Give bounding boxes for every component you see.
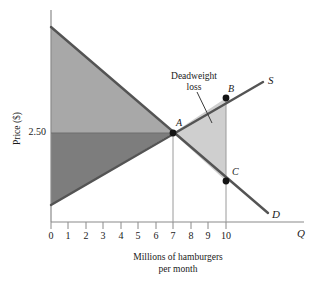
point-label-b: B <box>228 84 234 95</box>
x-axis-title-line1: Millions of hamburgers <box>98 252 258 262</box>
x-tick-label-10: 10 <box>216 231 236 242</box>
point-marker-a <box>170 130 177 137</box>
point-label-c: C <box>232 167 239 178</box>
x-tick-label-9: 9 <box>198 231 218 242</box>
x-axis-letter: Q <box>297 228 305 240</box>
deadweight-loss-label-line2: loss <box>152 82 236 93</box>
x-tick-label-3: 3 <box>93 231 113 242</box>
x-tick-label-1: 1 <box>58 231 78 242</box>
deadweight-loss-label-line1: Deadweight <box>152 71 236 82</box>
x-tick-label-5: 5 <box>128 231 148 242</box>
demand-curve-label: D <box>272 209 280 221</box>
point-marker-b <box>223 95 230 102</box>
point-label-a: A <box>176 118 182 129</box>
x-tick-label-7: 7 <box>163 231 183 242</box>
point-marker-c <box>223 178 230 185</box>
supply-demand-figure: Price ($) 2.50 0 1 2 3 4 5 6 7 8 9 10 Q … <box>0 0 317 281</box>
price-tick-label: 2.50 <box>12 127 46 138</box>
supply-curve-label: S <box>268 75 274 87</box>
x-axis-ticks <box>51 222 226 229</box>
x-axis-title-line2: per month <box>98 264 258 274</box>
